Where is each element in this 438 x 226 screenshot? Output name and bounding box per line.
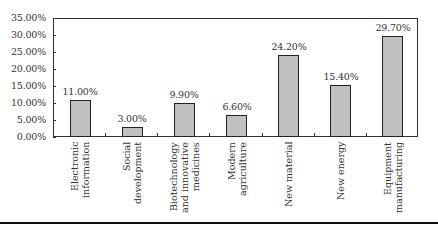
y-tick-label: 15.00% — [11, 81, 46, 91]
y-tick-label: 5.00% — [17, 115, 46, 125]
bar — [122, 127, 143, 137]
x-tick-mark — [262, 133, 263, 136]
bar-chart: 0.00%5.00%10.00%15.00%20.00%25.00%30.00%… — [0, 0, 438, 226]
bar — [174, 103, 195, 137]
y-tick-label: 25.00% — [11, 47, 46, 57]
bar-value-label: 6.60% — [207, 101, 267, 112]
y-tick-mark — [53, 35, 56, 36]
bar — [70, 100, 91, 137]
y-tick-label: 20.00% — [11, 64, 46, 74]
x-category-label: New material — [283, 142, 294, 218]
y-tick-mark — [53, 52, 56, 53]
x-category-label: Electronic information — [69, 142, 91, 218]
y-tick-label: 35.00% — [11, 13, 46, 23]
bar — [330, 85, 351, 137]
y-tick-label: 10.00% — [11, 98, 46, 108]
x-category-label: Biotechnology and innovative medicines — [168, 142, 201, 218]
y-tick-mark — [53, 103, 56, 104]
x-tick-mark — [314, 133, 315, 136]
x-category-label: Equipment manufacturing — [382, 142, 404, 218]
bar-value-label: 29.70% — [363, 22, 423, 33]
x-category-label: New energy — [335, 142, 346, 218]
bar — [226, 115, 247, 137]
bar — [382, 36, 403, 137]
y-tick-mark — [53, 18, 56, 19]
y-tick-label: 0.00% — [17, 132, 46, 142]
x-tick-mark — [209, 133, 210, 136]
y-tick-mark — [53, 120, 56, 121]
x-tick-mark — [157, 133, 158, 136]
bar-value-label: 9.90% — [154, 89, 214, 100]
y-tick-mark — [53, 137, 56, 138]
bottom-rule — [0, 222, 438, 224]
bar-value-label: 24.20% — [259, 41, 319, 52]
x-category-label: Modern agriculture — [226, 142, 248, 218]
y-tick-label: 30.00% — [11, 30, 46, 40]
y-tick-mark — [53, 69, 56, 70]
x-category-label: Social development — [121, 142, 143, 218]
bar-value-label: 11.00% — [50, 86, 110, 97]
bar — [278, 55, 299, 137]
x-tick-mark — [366, 133, 367, 136]
bar-value-label: 15.40% — [311, 71, 371, 82]
bar-value-label: 3.00% — [102, 113, 162, 124]
x-tick-mark — [105, 133, 106, 136]
